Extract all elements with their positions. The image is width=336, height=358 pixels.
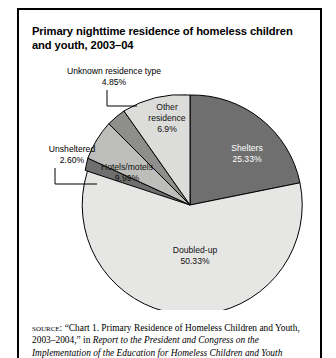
source-line3-italic: Implementation of the Education for Home… (32, 348, 282, 358)
callout-leader-unknown-residence-type (107, 90, 137, 106)
slice-label-shelters: Shelters (231, 143, 263, 153)
source-note: source: “Chart 1. Primary Residence of H… (32, 322, 320, 358)
callout-label-unknown-residence-type: Unknown residence type (67, 66, 161, 76)
pie-chart: Shelters 25.33% Doubled-up 50.33% Hotels… (19, 10, 322, 310)
source-line1: “Chart 1. Primary Residence of Homeless … (62, 323, 299, 333)
slice-value-other-residence: 6.9% (157, 124, 177, 134)
source-line2-plain: 2003–2004,” in (32, 335, 93, 345)
slice-label-doubled-up: Doubled-up (173, 245, 218, 255)
slice-label-hotels-motels: Hotels/motels (101, 162, 153, 172)
slice-label-other-residence-line1: Other (156, 102, 178, 112)
source-line2-italic: Report to the President and Congress on … (93, 335, 259, 345)
slice-value-shelters: 25.33% (232, 154, 262, 164)
callout-label-unsheltered: Unsheltered (49, 144, 96, 154)
slice-value-hotels-motels: 9.99% (115, 173, 140, 183)
figure-frame: Primary nighttime residence of homeless … (17, 8, 322, 358)
callout-value-unsheltered: 2.60% (60, 155, 85, 165)
slice-label-other-residence-line2: residence (148, 113, 185, 123)
pie-chart-svg: Shelters 25.33% Doubled-up 50.33% Hotels… (19, 10, 322, 310)
callout-value-unknown-residence-type: 4.85% (102, 77, 127, 87)
slice-value-doubled-up: 50.33% (180, 256, 210, 266)
source-label: source: (32, 322, 62, 333)
